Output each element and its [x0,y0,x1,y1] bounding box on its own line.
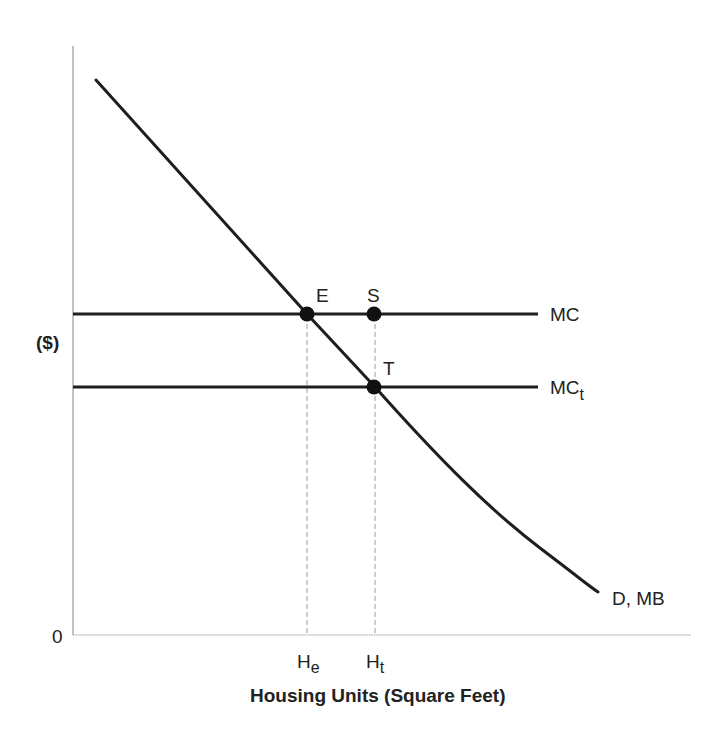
point-t-label: T [383,358,395,379]
ht-main: H [366,651,380,672]
mc-label: MC [550,304,580,325]
he-tick-label: He [297,651,320,676]
demand-label: D, MB [612,588,665,609]
ht-sub: t [380,659,385,676]
origin-label: 0 [52,626,63,647]
point-s-label: S [367,285,380,306]
point-t [367,380,382,395]
mc-t-label-sub: t [580,386,585,403]
he-sub: e [311,659,320,676]
mc-t-label-main: MC [550,377,580,398]
he-main: H [297,651,311,672]
y-axis-label: ($) [36,332,59,353]
x-axis-label: Housing Units (Square Feet) [250,685,505,706]
point-e [300,307,315,322]
point-s [367,307,382,322]
mc-t-label: MCt [550,377,585,403]
demand-curve [96,80,598,592]
housing-market-diagram: E S T MC MCt D, MB ($) 0 Housing Units (… [0,0,726,742]
ht-tick-label: Ht [366,651,385,676]
point-e-label: E [316,285,329,306]
